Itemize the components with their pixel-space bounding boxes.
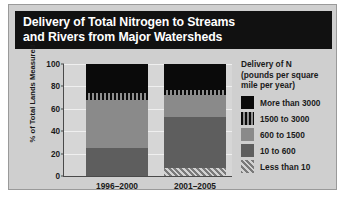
legend-swatch-icon [241,112,254,125]
legend-swatch-icon [241,128,254,141]
y-axis-title: % of Total Lands Measured [28,39,37,149]
plot-area: 020406080100 1996–20002001–2005 [63,64,232,177]
chart-title-line-1: Delivery of Total Nitrogen to Streams [23,15,324,30]
legend-item[interactable]: More than 3000 [241,95,345,111]
legend-item[interactable]: 10 to 600 [241,143,345,159]
y-tick-mark [61,153,64,154]
legend-item[interactable]: 600 to 1500 [241,127,345,143]
legend-title: Delivery of N (pounds per square mile pe… [241,59,345,91]
bar-2: 2001–2005 [164,64,226,176]
legend: Delivery of N (pounds per square mile pe… [241,59,345,175]
y-tick-label: 100 [46,60,60,69]
legend-title-line-3: mile per year) [241,80,345,91]
x-tick-label: 1996–2000 [86,181,148,191]
bar-segment [164,117,226,169]
bar-segment [86,93,148,100]
legend-label: 10 to 600 [260,146,296,156]
legend-swatch-icon [241,96,254,109]
bar-segment [86,64,148,93]
y-tick-label: 0 [55,172,60,181]
chart-title-banner: Delivery of Total Nitrogen to Streams an… [15,11,332,49]
bar-1: 1996–2000 [86,64,148,176]
legend-title-line-2: (pounds per square [241,70,345,81]
legend-swatch-icon [241,144,254,157]
y-tick-label: 80 [51,82,60,91]
y-tick-mark [61,108,64,109]
chart-title-line-2: and Rivers from Major Watersheds [23,30,324,45]
bar-segment [164,64,226,90]
bar-segment [164,95,226,116]
y-tick-label: 20 [51,149,60,158]
y-tick-label: 60 [51,104,60,113]
y-tick-label: 40 [51,127,60,136]
legend-item[interactable]: 1500 to 3000 [241,111,345,127]
legend-swatch-icon [241,160,254,173]
bar-segment [86,100,148,148]
x-tick-label: 2001–2005 [164,181,226,191]
legend-item[interactable]: Less than 10 [241,159,345,175]
legend-label: 1500 to 3000 [260,114,309,124]
legend-label: Less than 10 [260,162,310,172]
bar-segment [164,168,226,176]
y-tick-mark [61,176,64,177]
legend-items: More than 30001500 to 3000600 to 150010 … [241,95,345,175]
legend-label: 600 to 1500 [260,130,305,140]
y-tick-mark [61,131,64,132]
bar-segment [86,148,148,176]
y-tick-mark [61,64,64,65]
legend-title-line-1: Delivery of N [241,59,345,70]
figure-frame: Delivery of Total Nitrogen to Streams an… [8,4,337,190]
y-tick-mark [61,86,64,87]
legend-label: More than 3000 [260,98,320,108]
